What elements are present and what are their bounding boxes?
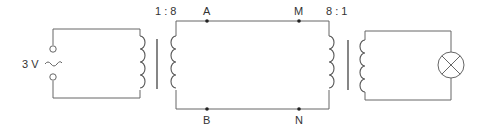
node-n-label: N: [295, 114, 303, 126]
primary-circuit: [45, 29, 145, 98]
node-a-label: A: [203, 5, 211, 17]
circuit-diagram: 3 V 1 : 8 8 : 1 A M B N: [0, 0, 484, 132]
source-voltage-label: 3 V: [22, 58, 39, 70]
ac-wave-icon: [45, 62, 62, 66]
node-m-label: M: [294, 5, 303, 17]
transmission-circuit: [171, 19, 334, 111]
lamp-icon: [438, 52, 464, 78]
node-n-dot: [297, 107, 301, 111]
secondary-coil-2: [360, 40, 365, 92]
source-terminal-bottom: [50, 74, 56, 80]
primary-coil-2: [329, 36, 334, 88]
node-a-dot: [205, 19, 209, 23]
load-circuit: [360, 31, 464, 100]
transformer-2-ratio: 8 : 1: [326, 5, 347, 17]
primary-coil-1: [140, 36, 145, 88]
node-b-label: B: [203, 114, 210, 126]
source-terminal-top: [50, 46, 56, 52]
node-m-dot: [297, 19, 301, 23]
node-b-dot: [205, 107, 209, 111]
transformer-1-ratio: 1 : 8: [155, 5, 176, 17]
secondary-coil-1: [171, 36, 176, 88]
